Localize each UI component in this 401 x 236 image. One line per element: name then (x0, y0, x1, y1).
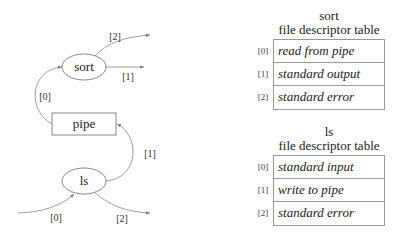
ls-row-index: [2] (254, 208, 272, 218)
ls-stdin-arrow (18, 194, 74, 213)
sort-fd-row: standard output (274, 63, 384, 86)
ls-fd-row: write to pipe (274, 179, 384, 202)
pipe-label: pipe (73, 116, 96, 131)
sort-fd-table: read from pipe standard output standard … (273, 39, 385, 110)
ls-to-pipe-label: [1] (144, 148, 156, 159)
ls-table-title: ls file descriptor table (270, 125, 388, 153)
ls-out2-label: [2] (116, 213, 128, 224)
sort-out1-label: [1] (122, 71, 134, 82)
sort-fd-row: standard error (274, 86, 384, 109)
sort-label: sort (74, 59, 94, 74)
sort-row-index: [1] (254, 69, 272, 79)
ls-in0-label: [0] (50, 212, 62, 223)
sort-table-title-process: sort (270, 9, 388, 23)
sort-table-title-caption: file descriptor table (270, 23, 388, 37)
sort-row-index: [2] (254, 92, 272, 102)
pipe-to-sort-label: [0] (39, 91, 51, 102)
ls-fd-table: standard input write to pipe standard er… (273, 155, 385, 226)
sort-fd-row: read from pipe (274, 40, 384, 63)
sort-table-title: sort file descriptor table (270, 9, 388, 37)
ls-fd-row: standard input (274, 156, 384, 179)
sort-stderr-arrow (95, 35, 150, 56)
ls-table-title-process: ls (270, 125, 388, 139)
ls-label: ls (80, 173, 89, 188)
ls-stderr-arrow (95, 193, 150, 213)
sort-out2-label: [2] (109, 31, 121, 42)
ls-row-index: [1] (254, 185, 272, 195)
ls-to-pipe-arrow (106, 124, 133, 181)
ls-table-title-caption: file descriptor table (270, 139, 388, 153)
ls-fd-row: standard error (274, 202, 384, 225)
sort-row-index: [0] (254, 46, 272, 56)
ls-row-index: [0] (254, 162, 272, 172)
